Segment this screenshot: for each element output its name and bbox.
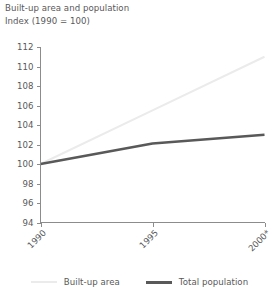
y-tick-label: 94 [23, 218, 34, 228]
series-group [41, 57, 265, 164]
y-tick-label: 106 [17, 101, 33, 111]
legend-item-total-population: Total population [146, 277, 248, 287]
y-tick-label: 98 [23, 179, 34, 189]
chart-legend: Built-up area Total population [0, 270, 279, 294]
chart-container: Built-up area and population Index (1990… [0, 0, 279, 294]
legend-label: Total population [179, 277, 248, 287]
legend-swatch-icon [31, 281, 57, 283]
y-tick-label: 110 [17, 62, 33, 72]
y-tick-label: 96 [23, 198, 34, 208]
legend-item-built-up-area: Built-up area [31, 277, 120, 287]
y-tick-label: 102 [17, 140, 33, 150]
x-tick-label: 1995 [137, 228, 160, 251]
plot-area: 949698100102104106108110112 199019952000… [0, 0, 279, 270]
y-tick-label: 108 [17, 81, 33, 91]
chart-svg: 949698100102104106108110112 199019952000… [0, 0, 279, 270]
series-line-built-up-area [41, 57, 265, 164]
legend-label: Built-up area [64, 277, 120, 287]
y-tick-label: 112 [17, 42, 33, 52]
x-tick-group: 199019952000* [25, 223, 272, 254]
y-tick-label: 104 [17, 120, 33, 130]
y-tick-label: 100 [17, 159, 33, 169]
x-tick-label: 1990 [25, 228, 48, 251]
y-tick-group: 949698100102104106108110112 [17, 42, 40, 228]
series-line-total-population [41, 135, 265, 164]
x-tick-label: 2000* [246, 227, 272, 253]
legend-swatch-icon [146, 281, 172, 284]
